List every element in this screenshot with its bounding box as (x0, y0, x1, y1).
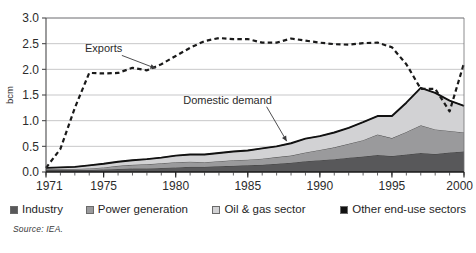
y-tick-label: 1.5 (22, 88, 39, 102)
legend-label-power-generation: Power generation (98, 204, 188, 216)
x-tick-label: 1975 (90, 179, 117, 193)
legend-label-industry: Industry (22, 204, 63, 216)
chart-legend: Industry Power generation Oil & gas sect… (0, 198, 476, 222)
legend-swatch-other-end-use (340, 206, 348, 214)
x-tick-label: 1980 (162, 179, 189, 193)
x-tick-label: 1990 (307, 179, 334, 193)
legend-label-oil-gas-sector: Oil & gas sector (224, 204, 305, 216)
x-tick-label: 1971 (36, 179, 63, 193)
figure-title-strip (0, 0, 476, 6)
legend-label-other-end-use-sectors: Other end-use sectors (352, 204, 466, 216)
legend-item-industry[interactable]: Industry (10, 204, 63, 216)
legend-item-power-generation[interactable]: Power generation (86, 204, 188, 216)
figure-container: 0.00.51.01.52.02.53.0bcm1971197519801985… (0, 0, 476, 253)
x-tick-label: 1995 (379, 179, 406, 193)
y-tick-label: 1.0 (22, 114, 39, 128)
y-tick-label: 2.0 (22, 63, 39, 77)
y-tick-label: 2.5 (22, 37, 39, 51)
legend-item-other-end-use-sectors[interactable]: Other end-use sectors (340, 204, 466, 216)
x-tick-label: 1985 (234, 179, 261, 193)
y-tick-label: 0.0 (22, 165, 39, 179)
gas-balance-area-chart: 0.00.51.01.52.02.53.0bcm1971197519801985… (0, 0, 476, 200)
y-tick-label: 3.0 (22, 11, 39, 25)
annotation-label-exports: Exports (85, 42, 123, 54)
legend-item-oil-gas-sector[interactable]: Oil & gas sector (212, 204, 305, 216)
y-tick-label: 0.5 (22, 140, 39, 154)
source-note: Source: IEA. (13, 224, 63, 234)
legend-swatch-industry (10, 206, 18, 214)
y-axis-title: bcm (4, 86, 15, 104)
annotation-label-domestic-demand: Domestic demand (183, 94, 272, 106)
x-tick-label: 2000 (446, 179, 473, 193)
legend-swatch-power-generation (86, 206, 94, 214)
legend-swatch-oil-gas-sector (212, 206, 220, 214)
